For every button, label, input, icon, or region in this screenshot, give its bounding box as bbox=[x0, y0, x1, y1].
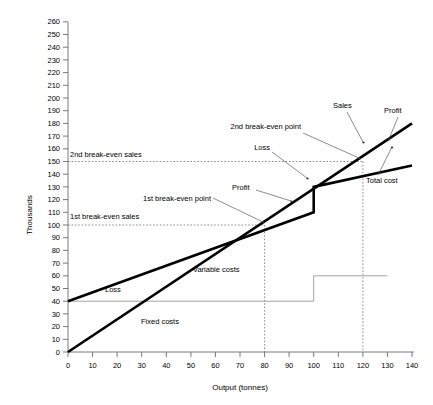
y-tick-0: 0 bbox=[56, 348, 60, 357]
x-tick-40: 40 bbox=[162, 361, 170, 370]
break-even-chart: 0 10 20 30 40 50 60 70 80 90 100 110 120… bbox=[0, 0, 433, 405]
y-tick-100: 100 bbox=[47, 221, 60, 230]
x-axis-tick-labels: 0 10 20 30 40 50 60 70 80 90 100 110 120… bbox=[66, 361, 418, 370]
y-tick-170: 170 bbox=[47, 132, 60, 141]
leader-profit-left bbox=[256, 190, 291, 201]
annotation-variable-costs: Variable costs bbox=[193, 265, 240, 274]
x-tick-90: 90 bbox=[285, 361, 293, 370]
y-tick-80: 80 bbox=[52, 246, 60, 255]
y-tick-260: 260 bbox=[47, 17, 60, 26]
y-tick-70: 70 bbox=[52, 259, 60, 268]
y-tick-140: 140 bbox=[47, 170, 60, 179]
y-tick-230: 230 bbox=[47, 56, 60, 65]
y-tick-120: 120 bbox=[47, 195, 60, 204]
y-tick-200: 200 bbox=[47, 94, 60, 103]
y-axis-tick-labels: 0 10 20 30 40 50 60 70 80 90 100 110 120… bbox=[47, 17, 60, 356]
y-tick-240: 240 bbox=[47, 43, 60, 52]
y-tick-10: 10 bbox=[52, 335, 60, 344]
leader-loss-right bbox=[272, 152, 307, 178]
annotation-2nd-break-even-point: 2nd break-even point bbox=[231, 122, 302, 131]
x-tick-80: 80 bbox=[260, 361, 268, 370]
x-tick-140: 140 bbox=[406, 361, 419, 370]
y-tick-130: 130 bbox=[47, 183, 60, 192]
y-tick-30: 30 bbox=[52, 310, 60, 319]
y-axis: 0 10 20 30 40 50 60 70 80 90 100 110 120… bbox=[25, 17, 68, 356]
x-tick-130: 130 bbox=[381, 361, 394, 370]
y-tick-90: 90 bbox=[52, 233, 60, 242]
x-tick-100: 100 bbox=[307, 361, 320, 370]
x-tick-60: 60 bbox=[211, 361, 219, 370]
x-axis-title: Output (tonnes) bbox=[212, 383, 268, 392]
x-tick-120: 120 bbox=[357, 361, 370, 370]
y-axis-title: Thousands bbox=[25, 195, 34, 235]
annotation-loss-left: Loss bbox=[105, 285, 121, 294]
x-tick-0: 0 bbox=[66, 361, 70, 370]
y-tick-60: 60 bbox=[52, 271, 60, 280]
leader-2nd-break-even-point bbox=[303, 133, 359, 158]
annotation-sales: Sales bbox=[333, 101, 352, 110]
y-tick-210: 210 bbox=[47, 81, 60, 90]
y-tick-50: 50 bbox=[52, 284, 60, 293]
annotation-1st-break-even-point: 1st break-even point bbox=[143, 194, 212, 203]
y-tick-40: 40 bbox=[52, 297, 60, 306]
x-tick-10: 10 bbox=[88, 361, 96, 370]
annotation-profit-left: Profit bbox=[232, 183, 250, 192]
annotation-1st-break-even-sales: 1st break-even sales bbox=[70, 212, 139, 221]
y-tick-250: 250 bbox=[47, 30, 60, 39]
x-tick-20: 20 bbox=[113, 361, 121, 370]
x-tick-70: 70 bbox=[236, 361, 244, 370]
x-axis: 0 10 20 30 40 50 60 70 80 90 100 110 120… bbox=[66, 352, 418, 392]
y-tick-190: 190 bbox=[47, 106, 60, 115]
annotation-fixed-costs: Fixed costs bbox=[141, 317, 179, 326]
y-tick-160: 160 bbox=[47, 144, 60, 153]
y-axis-ticks bbox=[63, 22, 68, 352]
annotation-profit-right: Profit bbox=[384, 106, 402, 115]
y-tick-220: 220 bbox=[47, 68, 60, 77]
y-tick-150: 150 bbox=[47, 157, 60, 166]
y-tick-20: 20 bbox=[52, 322, 60, 331]
x-tick-110: 110 bbox=[332, 361, 344, 370]
annotation-loss-right: Loss bbox=[254, 143, 270, 152]
leader-sales bbox=[347, 112, 363, 142]
annotation-total-cost: Total cost bbox=[366, 176, 399, 185]
y-tick-110: 110 bbox=[48, 208, 60, 217]
chart-canvas: 0 10 20 30 40 50 60 70 80 90 100 110 120… bbox=[0, 0, 433, 405]
x-tick-30: 30 bbox=[138, 361, 146, 370]
y-tick-180: 180 bbox=[47, 119, 60, 128]
annotations: 2nd break-even sales 1st break-even sale… bbox=[70, 101, 402, 326]
x-tick-50: 50 bbox=[187, 361, 195, 370]
x-axis-ticks bbox=[68, 352, 412, 357]
annotation-2nd-break-even-sales: 2nd break-even sales bbox=[70, 150, 142, 159]
leader-1st-break-even-point bbox=[213, 198, 263, 222]
